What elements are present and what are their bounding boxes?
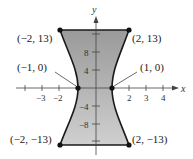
x-tick-label: −3 [36, 93, 46, 103]
y-tick-label: 4 [84, 66, 89, 76]
point-label: (2, −13) [132, 133, 168, 146]
y-axis-arrow-icon [94, 16, 99, 23]
region-diagram: x y −3 −2 2 3 4 8 4 −4 −8 (−2, 13) [0, 0, 193, 159]
x-axis-arrow-icon [172, 86, 179, 91]
y-tick-label: −8 [79, 120, 89, 130]
leader-line-right [114, 72, 137, 86]
y-axis-label: y [91, 4, 97, 15]
point-label: (−2, −13) [10, 133, 52, 146]
x-tick-label: 4 [161, 93, 166, 103]
shaded-region [60, 30, 129, 145]
y-tick-label: −4 [79, 102, 89, 112]
y-tick-label: 8 [84, 48, 89, 58]
x-axis-label: x [180, 83, 186, 94]
point-label: (1, 0) [140, 61, 164, 74]
point-label: (−1, 0) [17, 61, 47, 74]
point-label: (2, 13) [132, 32, 162, 45]
x-tick-label: 3 [144, 93, 149, 103]
point-label: (−2, 13) [17, 32, 53, 45]
leader-line-left [55, 72, 76, 86]
x-tick-label: −2 [53, 93, 63, 103]
x-tick-label: 2 [127, 93, 132, 103]
